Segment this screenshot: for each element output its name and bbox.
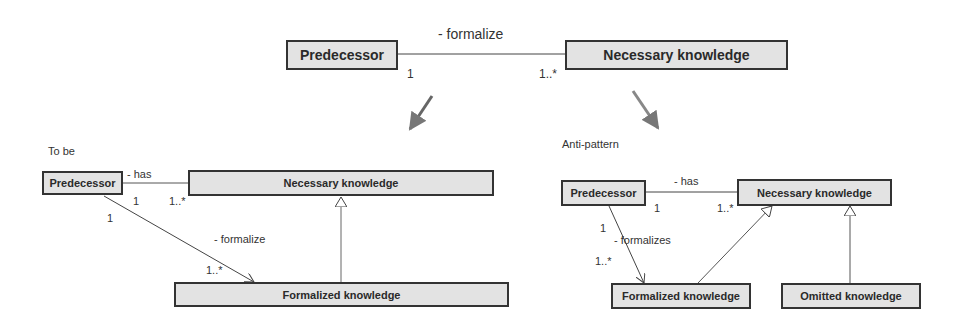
class-name: Omitted knowledge	[800, 290, 901, 302]
anti-necessary-knowledge-class: Necessary knowledge	[737, 179, 892, 206]
class-name: Formalized knowledge	[283, 289, 401, 301]
to-be-has-mult-right: 1..*	[169, 195, 186, 207]
anti-has-label: - has	[674, 175, 698, 187]
to-be-formalize-mult-dst: 1..*	[206, 264, 223, 276]
to-be-formalize-label: - formalize	[214, 233, 265, 245]
anti-pattern-title: Anti-pattern	[562, 138, 619, 150]
class-name: Predecessor	[300, 47, 384, 63]
anti-formalize-label: - formalizes	[614, 234, 671, 246]
class-name: Predecessor	[49, 177, 115, 189]
anti-formalize-mult-dst: 1..*	[595, 255, 612, 267]
anti-has-mult-right: 1..*	[717, 202, 734, 214]
anti-formalize-mult-src: 1	[600, 222, 606, 234]
connector-layer	[0, 0, 957, 324]
to-be-has-label: - has	[127, 168, 151, 180]
top-mult-right: 1..*	[539, 67, 557, 81]
anti-omitted-knowledge-class: Omitted knowledge	[781, 283, 921, 309]
to-be-has-mult-left: 1	[133, 195, 139, 207]
class-name: Formalized knowledge	[622, 290, 740, 302]
top-mult-left: 1	[407, 67, 414, 81]
class-name: Necessary knowledge	[284, 177, 399, 189]
anti-formalized-knowledge-class: Formalized knowledge	[611, 283, 751, 309]
to-be-predecessor-class: Predecessor	[42, 171, 123, 195]
to-be-necessary-knowledge-class: Necessary knowledge	[188, 170, 494, 196]
top-predecessor-class: Predecessor	[286, 40, 398, 70]
class-name: Necessary knowledge	[757, 187, 872, 199]
anti-has-mult-left: 1	[654, 202, 660, 214]
to-be-formalized-knowledge-class: Formalized knowledge	[174, 282, 509, 307]
class-name: Necessary knowledge	[603, 47, 749, 63]
class-name: Predecessor	[570, 187, 636, 199]
anti-predecessor-class: Predecessor	[561, 180, 646, 206]
to-be-formalize-mult-src: 1	[107, 212, 113, 224]
to-be-title: To be	[48, 145, 75, 157]
top-association-label: - formalize	[438, 26, 503, 42]
top-necessary-knowledge-class: Necessary knowledge	[565, 40, 788, 70]
